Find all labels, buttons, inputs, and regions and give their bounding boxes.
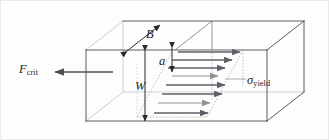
label-crack-length-a-symbol: a (159, 54, 165, 68)
label-f-crit-symbol: F (19, 62, 27, 76)
label-f-crit: Fcrit (19, 63, 38, 77)
label-f-crit-subscript: crit (27, 68, 38, 77)
specimen-diagram (0, 0, 329, 140)
label-width-w: W (135, 80, 145, 93)
label-thickness-b: B (146, 28, 154, 41)
label-sigma-yield: σyield (247, 74, 270, 88)
label-width-w-symbol: W (135, 79, 145, 93)
label-crack-length-a: a (159, 55, 165, 68)
figure-container: Fcrit σyield B a W (0, 0, 329, 140)
label-thickness-b-symbol: B (146, 27, 154, 41)
box-top-face (86, 21, 304, 50)
label-sigma-yield-subscript: yield (253, 79, 270, 88)
